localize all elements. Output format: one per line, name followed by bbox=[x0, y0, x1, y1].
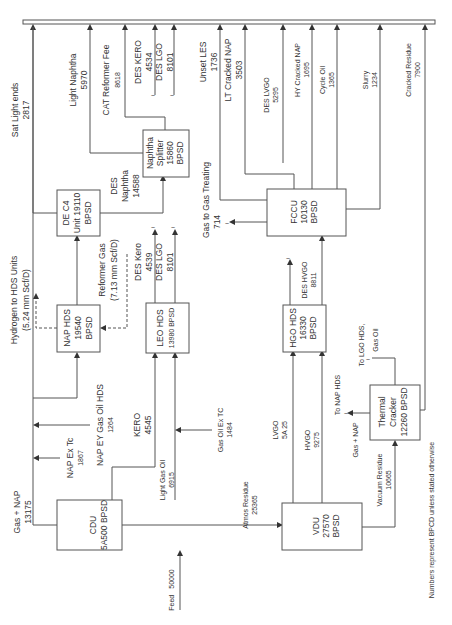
break-icon: ~ bbox=[286, 255, 290, 262]
product-header-bar bbox=[23, 20, 435, 24]
des-hvgo-value: 8811 bbox=[310, 272, 317, 287]
cdu-capacity: 5A500 BPSD bbox=[99, 500, 109, 550]
nap-hds-capacity: 19540 bbox=[73, 316, 83, 340]
leo-hds-capacity: 13980 BPSD bbox=[168, 308, 175, 348]
atmos-residue-label: Atmos Residue bbox=[242, 481, 249, 529]
cracked-residue-value: 7900 bbox=[414, 62, 421, 78]
lvgo-value: 5A 25 bbox=[281, 421, 288, 439]
nap-ex-tc-value: 1867 bbox=[77, 450, 84, 466]
cycle-oil-value: 1365 bbox=[328, 72, 335, 88]
des-kero-value: 4539 bbox=[144, 252, 154, 271]
des-kero-label: DES Kero bbox=[133, 243, 143, 281]
hgo-hds-capacity: 16330 bbox=[298, 316, 308, 340]
vdu-unit: BPSD bbox=[331, 514, 341, 537]
cycle-oil-label: Cycle Oil bbox=[319, 66, 327, 94]
lt-cracked-nap-label: LT Cracked NAP bbox=[223, 38, 233, 101]
des-lvgo-label: DES LVGO bbox=[263, 77, 270, 113]
nap-feed-line bbox=[33, 355, 77, 398]
gas-oil-ex-tc-label: Gas Oil Ex TC bbox=[217, 408, 224, 453]
leo-hds-name: LEO HDS bbox=[155, 309, 165, 347]
light-naphtha-label: Light Naphtha bbox=[68, 53, 78, 106]
sat-light-ends-line bbox=[33, 27, 57, 213]
refinery-flow-diagram: CDU 5A500 BPSD Feed50000 Gas + NAP 13175… bbox=[0, 0, 452, 625]
atmos-residue-value: 25365 bbox=[251, 495, 258, 515]
to-nap-hds-label: To NAP HDS bbox=[334, 375, 341, 416]
des-hvgo-label: DES HVGO bbox=[301, 261, 308, 299]
sat-light-ends-label: Sat Light ends bbox=[10, 83, 20, 137]
vacuum-residue-value: 10665 bbox=[385, 470, 392, 490]
cat-reformer-label: CAT Reformer Fee bbox=[101, 44, 111, 115]
feed-value: 50000 bbox=[168, 569, 175, 589]
cracked-residue-label: Cracked Residue bbox=[405, 43, 412, 97]
cdu-name: CDU bbox=[88, 516, 98, 534]
gas-nap-value: 13175 bbox=[23, 500, 33, 524]
nap-ex-tc-label: NAP Ex Tc bbox=[65, 437, 75, 478]
to-lgo-hds-label: To LGO HDS, bbox=[358, 324, 365, 367]
slurry-value: 1234 bbox=[371, 72, 378, 88]
fccu-capacity: 10130 bbox=[299, 200, 309, 224]
des-lgo-top-label: DES LGO bbox=[154, 43, 164, 81]
svg-text:Feed50000: Feed50000 bbox=[168, 569, 175, 611]
reformer-gas-label: Reformer Gas bbox=[97, 243, 107, 296]
de-c4-capacity: Unit 19110 bbox=[72, 192, 82, 233]
tc-gas-oil-line bbox=[372, 358, 395, 385]
break-icon: ~ bbox=[170, 92, 174, 99]
splitter-name: Naphtha bbox=[145, 137, 155, 169]
nap-hds-name: NAP HDS bbox=[62, 309, 72, 347]
des-lgo-value: 8101 bbox=[165, 252, 175, 271]
break-icon: ~ bbox=[151, 92, 155, 99]
des-kero-top-label: DES KERO bbox=[133, 40, 143, 84]
des-kero-top-value: 4534 bbox=[144, 52, 154, 71]
reformer-gas-value: (7.13 mm Scf/D) bbox=[109, 239, 119, 301]
break-icon: ~ bbox=[366, 356, 370, 363]
footnote: Numbers represent BPCD unless stated oth… bbox=[428, 442, 436, 599]
fccu-unit: BPSD bbox=[309, 200, 319, 223]
lvgo-label: LVGO bbox=[272, 420, 279, 439]
des-naphtha-value: 14588 bbox=[131, 174, 141, 198]
hgo-hds-name: HGO HDS bbox=[288, 308, 298, 348]
break-icon: ~ bbox=[225, 220, 229, 227]
thermal-cracker-name2: Cracker bbox=[388, 397, 398, 427]
light-naphtha-value: 5970 bbox=[79, 70, 89, 89]
tc-gas-nap-label: Gas + NAP bbox=[352, 422, 359, 458]
des-lvgo-value: 5295 bbox=[272, 87, 279, 103]
gas-nap-line bbox=[33, 27, 57, 525]
cat-reformer-value: 8618 bbox=[114, 72, 121, 88]
des-lgo-top-value: 8101 bbox=[165, 52, 175, 71]
tc-gas-oil-label: Gas Oil bbox=[372, 328, 379, 352]
hvgo-value: 9275 bbox=[313, 432, 320, 448]
vacuum-residue-label: Vacuum Residue bbox=[376, 454, 383, 507]
gas-oil-ex-tc-value: 1484 bbox=[226, 422, 233, 438]
hgo-hds-unit: BPSD bbox=[308, 316, 318, 339]
kero-label: KERO bbox=[132, 413, 142, 437]
splitter-name2: Splitter bbox=[155, 140, 165, 167]
hvgo-label: HVGO bbox=[304, 429, 311, 450]
kero-value: 4545 bbox=[143, 415, 153, 434]
gas-nap-label: Gas + NAP bbox=[12, 490, 22, 533]
hy-cracked-nap-value: 1695 bbox=[303, 62, 310, 78]
break-icon: ~ bbox=[344, 410, 348, 417]
vdu-capacity: 27570 bbox=[321, 514, 331, 538]
hydrogen-value: (5.24 mm Scf/D) bbox=[21, 269, 31, 331]
nap-hds-unit: BPSD bbox=[84, 316, 94, 339]
slurry-line bbox=[346, 27, 380, 209]
des-lgo-label: DES LGO bbox=[154, 243, 164, 281]
hydrogen-label: Hydrogen to HDS Units bbox=[9, 256, 19, 344]
de-c4-name: DE C4 bbox=[61, 200, 71, 225]
feed-label: Feed bbox=[168, 595, 175, 611]
vdu-name: VDU bbox=[311, 517, 321, 535]
de-c4-unit: BPSD bbox=[83, 201, 93, 224]
nap-ey-label: NAP EY Gas Oil HDS bbox=[95, 384, 105, 466]
splitter-unit: BPSD bbox=[175, 141, 185, 164]
cracked-residue-line bbox=[420, 27, 425, 410]
nap-ey-value: 1264 bbox=[107, 417, 114, 433]
des-naphtha-label2: Naphtha bbox=[120, 170, 130, 202]
fccu-name: FCCU bbox=[289, 200, 299, 224]
des-naphtha-label: DES bbox=[109, 177, 119, 195]
hy-cracked-nap-label: HY Cracked NAP bbox=[294, 43, 301, 97]
slurry-label: Slurry bbox=[362, 70, 370, 89]
hydrogen-line bbox=[36, 296, 57, 328]
unset-les-label: Unset LES bbox=[198, 41, 208, 82]
unset-les-value: 1736 bbox=[209, 52, 219, 71]
light-gas-oil-value: 6915 bbox=[168, 472, 175, 488]
